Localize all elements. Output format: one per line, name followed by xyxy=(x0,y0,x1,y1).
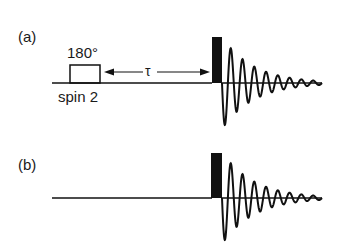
fid-signal-b xyxy=(222,163,322,240)
panel-b: (b) xyxy=(18,153,322,240)
pulse-angle-label: 180° xyxy=(67,44,98,61)
soft-pulse-box xyxy=(70,65,100,83)
panel-a-label: (a) xyxy=(18,28,36,45)
hard-pulse-a xyxy=(212,37,222,83)
hard-pulse-b xyxy=(211,153,222,198)
spin-label: spin 2 xyxy=(58,88,98,105)
tau-symbol: τ xyxy=(145,63,151,79)
delay-arrow: τ xyxy=(104,63,210,79)
panel-a: (a) 180° spin 2 τ xyxy=(18,28,322,125)
fid-signal-a xyxy=(222,48,322,125)
panel-b-label: (b) xyxy=(18,156,36,173)
pulse-sequence-diagram: (a) 180° spin 2 τ (b) xyxy=(0,0,353,247)
